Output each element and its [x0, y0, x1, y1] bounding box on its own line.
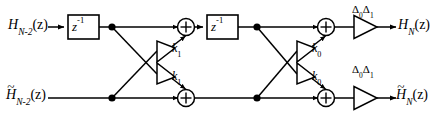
label-k1-lower-sub: 1 [177, 78, 181, 87]
tilde-accent-icon: ~ [397, 80, 404, 93]
label-output-bottom: ~HN(z) [396, 88, 428, 105]
node-bottom-right [253, 94, 260, 101]
label-input-top-arg: (z) [32, 17, 48, 32]
label-gain-k1-lower: k1 [172, 70, 181, 86]
wire-cross-bl-to-k1-upper [112, 51, 157, 98]
gain-triangle-delta-bottom [354, 87, 377, 110]
wire-cross-tl-to-k1-lower [112, 27, 157, 74]
label-output-top-arg: (z) [414, 17, 430, 32]
label-output-bottom-sub: N [406, 97, 412, 107]
node-bottom-left [108, 94, 115, 101]
label-delta-bottom-second: Δ [363, 63, 370, 75]
label-input-bottom-sub: N-2 [16, 97, 30, 107]
adder-top-left [178, 19, 195, 36]
label-delay-block-1: z-1 [72, 19, 84, 33]
node-top-left [108, 23, 115, 30]
wire-cross-tr-to-k0-lower [257, 27, 297, 74]
label-gain-k0-lower: k0 [312, 70, 321, 86]
label-input-top-base: H [8, 17, 18, 32]
label-output-top: HN(z) [398, 18, 430, 35]
label-delta-top-second: Δ [363, 3, 370, 15]
label-gain-k1-upper: k1 [172, 42, 181, 58]
label-input-bottom-arg: (z) [30, 87, 46, 102]
label-gain-k0-upper: k0 [312, 42, 321, 58]
label-delay-block-2: z-1 [211, 19, 223, 33]
tilde-accent-icon: ~ [7, 80, 14, 93]
label-delay-1-exponent: -1 [77, 15, 84, 25]
label-gain-delta-top: Δ0Δ1 [352, 4, 374, 18]
label-input-top-sub: N-2 [18, 27, 32, 37]
label-delta-top-first-sub: 0 [359, 11, 363, 20]
adder-bottom-left [178, 90, 195, 107]
label-k0-upper-sub: 0 [317, 50, 321, 59]
label-output-bottom-arg: (z) [412, 87, 428, 102]
label-delay-2-exponent: -1 [216, 15, 223, 25]
label-delta-bottom-first-sub: 0 [359, 71, 363, 80]
lattice-filter-diagram: HN-2(z) ~HN-2(z) HN(z) ~HN(z) z-1 z-1 k1… [0, 0, 445, 118]
label-input-bottom-tilde-group: ~H [6, 88, 16, 102]
label-k1-upper-sub: 1 [177, 50, 181, 59]
label-gain-delta-bottom: Δ0Δ1 [352, 64, 374, 78]
label-output-bottom-tilde-group: ~H [396, 88, 406, 102]
adder-top-right [318, 19, 335, 36]
label-input-bottom: ~HN-2(z) [6, 88, 46, 105]
label-k0-lower-sub: 0 [317, 78, 321, 87]
label-delta-bottom-second-sub: 1 [370, 71, 374, 80]
node-top-right [253, 23, 260, 30]
label-input-top: HN-2(z) [8, 18, 48, 35]
label-output-top-sub: N [408, 27, 414, 37]
label-delta-top-second-sub: 1 [370, 11, 374, 20]
adder-bottom-right [318, 90, 335, 107]
label-output-top-base: H [398, 17, 408, 32]
wire-cross-br-to-k0-upper [257, 51, 297, 98]
